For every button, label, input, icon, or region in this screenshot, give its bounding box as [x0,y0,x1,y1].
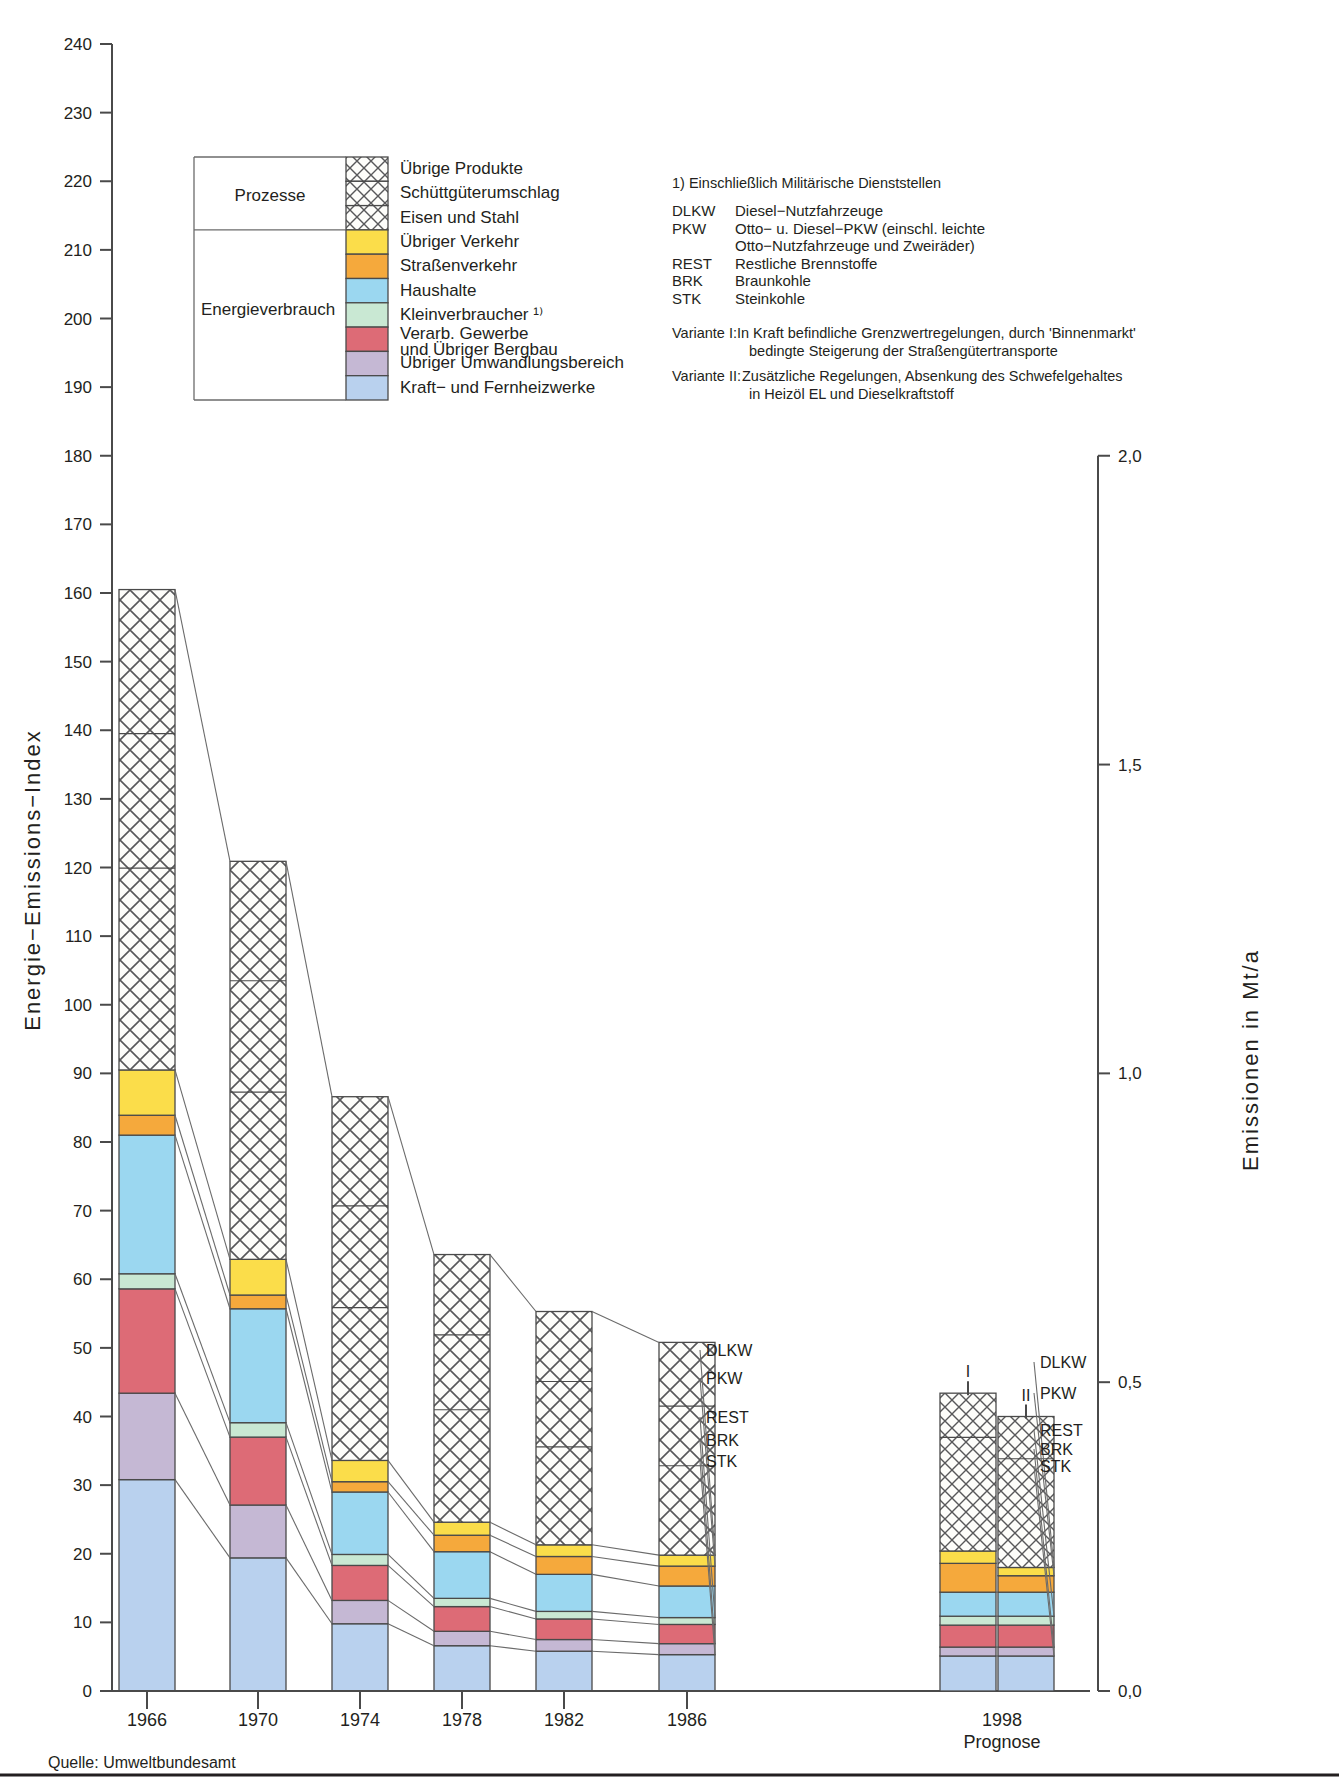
bar-segment [659,1624,715,1643]
series-end-label: PKW [706,1370,743,1387]
emissions-index-chart: 0102030405060708090100110120130140150160… [0,0,1339,1777]
axis-tick-label: 20 [73,1545,92,1564]
prognose-caption: Prognose [963,1732,1040,1752]
abbreviation-text: Restliche Brennstoffe [735,255,877,272]
bar-segment [998,1647,1054,1656]
bar-segment [659,1618,715,1625]
bar-segment [998,1616,1054,1625]
abbreviation-text: Braunkohle [735,272,811,289]
bar-segment [998,1656,1054,1691]
legend-label: Kraft− und Fernheizwerke [400,378,595,397]
variante-1-key: Variante I: [672,325,737,341]
bar-segment [332,1492,388,1554]
bar-segment [659,1566,715,1586]
prognose-variant-label: II [1022,1387,1031,1404]
axis-tick-label: 230 [64,104,92,123]
series-end-label: REST [1040,1422,1083,1439]
bar-segment [332,1097,388,1461]
axis-tick-label: 0,0 [1118,1682,1142,1701]
axis-tick-label: 180 [64,447,92,466]
bar-segment [434,1552,490,1599]
bar-segment [230,1309,286,1423]
axis-tick-label: 0,5 [1118,1373,1142,1392]
bar-segment [119,1289,175,1393]
bar-segment [536,1312,592,1545]
bar-segment [998,1417,1054,1568]
axis-tick-label: 200 [64,310,92,329]
series-end-label: DLKW [706,1342,753,1359]
bar-segment [940,1393,996,1551]
abbreviation-text: Otto−Nutzfahrzeuge und Zweiräder) [735,237,975,254]
bar-segment [434,1646,490,1691]
prognose-year-label: 1998 [982,1710,1022,1730]
legend-swatch [346,181,388,205]
axis-tick-label: 70 [73,1202,92,1221]
legend-swatch [346,206,388,230]
legend-swatch [346,157,388,181]
bar-segment [230,1437,286,1505]
abbreviation-key: REST [672,255,712,272]
bar-segment [536,1556,592,1574]
axis-tick-label: 1,0 [1118,1064,1142,1083]
legend-label: Schüttgüterumschlag [400,183,560,202]
series-end-label: PKW [1040,1385,1077,1402]
series-end-label: STK [706,1453,737,1470]
legend-label: Straßenverkehr [400,256,517,275]
series-end-label: DLKW [1040,1354,1087,1371]
bar-segment [940,1647,996,1656]
bar-segment [536,1619,592,1640]
legend-swatch [346,254,388,278]
bar-segment [230,861,286,1259]
legend-group-label: Energieverbrauch [201,300,335,319]
left-axis-title: Energie−Emissions−Index [20,729,45,1031]
series-end-label: REST [706,1409,749,1426]
x-axis-year-label: 1966 [127,1710,167,1730]
axis-tick-label: 1,5 [1118,756,1142,775]
axis-tick-label: 40 [73,1408,92,1427]
legend-label: Übrige Produkte [400,159,523,178]
bar-segment [434,1631,490,1645]
legend-label: Übriger Umwandlungsbereich [400,353,624,372]
bar-segment [119,590,175,1070]
bar-segment [659,1644,715,1655]
axis-tick-label: 50 [73,1339,92,1358]
legend-group-label: Prozesse [235,186,306,205]
bar-segment [536,1545,592,1557]
bar-segment [998,1625,1054,1647]
bar-segment [119,1070,175,1115]
axis-tick-label: 110 [65,927,92,946]
x-axis-year-label: 1974 [340,1710,380,1730]
bar-segment [940,1592,996,1616]
abbreviation-key: STK [672,290,701,307]
legend-swatch [346,230,388,254]
x-axis-year-label: 1970 [238,1710,278,1730]
source-label: Quelle: Umweltbundesamt [48,1754,236,1771]
axis-tick-label: 120 [64,859,92,878]
bar-segment [434,1535,490,1551]
bar-segment [332,1565,388,1600]
bar-segment [536,1574,592,1611]
bar-segment [119,1480,175,1691]
bar-segment [536,1611,592,1619]
footnote-text: 1) Einschließlich Militärische Dienstste… [672,175,941,191]
legend-label: Übriger Verkehr [400,232,519,251]
legend-swatch [346,351,388,375]
series-end-label: STK [1040,1458,1071,1475]
bar-segment [230,1295,286,1309]
axis-tick-label: 160 [64,584,92,603]
bar-segment [434,1598,490,1606]
variante-1-line1: In Kraft befindliche Grenzwertregelungen… [737,325,1136,341]
axis-tick-label: 60 [73,1270,92,1289]
series-end-label: BRK [706,1432,739,1449]
abbreviation-key: PKW [672,220,707,237]
axis-tick-label: 170 [64,515,92,534]
bar-segment [230,1505,286,1558]
bar-segment [659,1586,715,1618]
variante-1-line2: bedingte Steigerung der Straßengütertran… [749,343,1058,359]
axis-tick-label: 150 [64,653,92,672]
abbreviation-text: Otto− u. Diesel−PKW (einschl. leichte [735,220,985,237]
legend-label: Haushalte [400,281,477,300]
abbreviation-text: Diesel−Nutzfahrzeuge [735,202,883,219]
bar-segment [536,1640,592,1652]
axis-tick-label: 30 [73,1476,92,1495]
